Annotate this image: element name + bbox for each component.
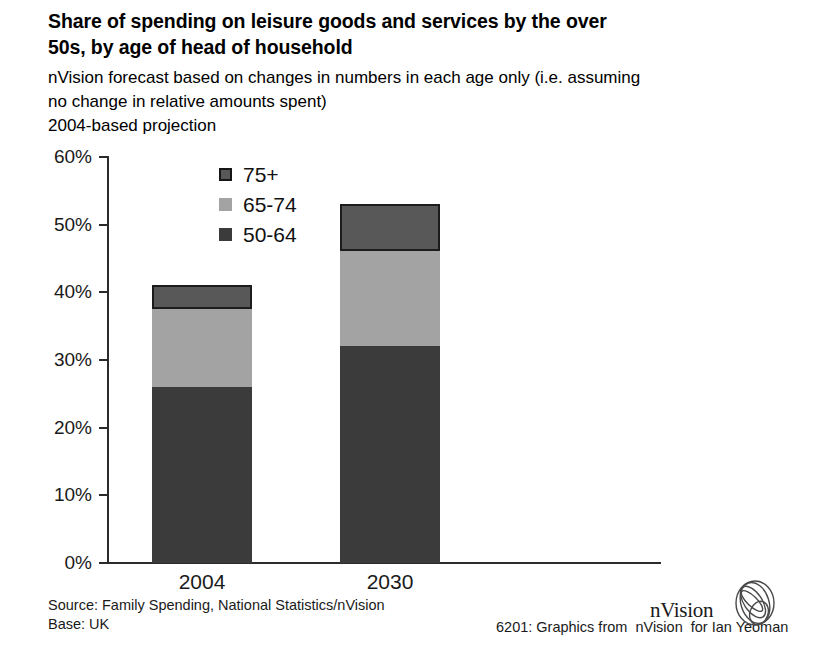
nvision-ellipse-logo-icon (728, 580, 782, 632)
bar-2004-segment-65-74[interactable] (152, 309, 252, 387)
legend-item-65-74[interactable]: 65-74 (219, 190, 369, 218)
source-note: Source: Family Spending, National Statis… (48, 596, 385, 634)
legend-label-50-64: 50-64 (243, 224, 297, 245)
bar-2030-segment-65-74[interactable] (340, 251, 440, 346)
stacked-bar-chart: 60% 50% 40% 30% 20% 10% 0% 2004 2030 (0, 0, 837, 665)
legend-swatch-75-plus-icon (219, 168, 232, 181)
y-tick-60 (99, 156, 108, 158)
bar-2004-segment-75-plus[interactable] (152, 285, 252, 309)
y-tick-50 (99, 224, 108, 226)
legend-item-50-64[interactable]: 50-64 (219, 220, 369, 248)
legend-swatch-65-74-icon (219, 198, 232, 211)
y-tick-label-60: 60% (30, 147, 92, 166)
base-line: Base: UK (48, 615, 385, 634)
chart-legend: 75+ 65-74 50-64 (219, 160, 369, 250)
x-tick-label-2030: 2030 (310, 570, 470, 594)
y-tick-10 (99, 494, 108, 496)
bar-2030-segment-50-64[interactable] (340, 346, 440, 563)
legend-label-75-plus: 75+ (243, 164, 279, 185)
y-tick-label-20: 20% (30, 418, 92, 437)
x-tick-label-2004: 2004 (122, 570, 282, 594)
y-tick-label-0: 0% (30, 553, 92, 572)
legend-label-65-74: 65-74 (243, 194, 297, 215)
chart-page: Share of spending on leisure goods and s… (0, 0, 837, 665)
y-tick-label-30: 30% (30, 350, 92, 369)
legend-swatch-50-64-icon (219, 228, 232, 241)
bar-2004-segment-50-64[interactable] (152, 387, 252, 563)
y-tick-label-50: 50% (30, 215, 92, 234)
y-tick-20 (99, 427, 108, 429)
y-tick-label-10: 10% (30, 485, 92, 504)
nvision-logo: nVision (650, 580, 790, 628)
y-tick-30 (99, 359, 108, 361)
y-tick-40 (99, 291, 108, 293)
nvision-logo-text: nVision (650, 598, 713, 623)
y-tick-label-40: 40% (30, 282, 92, 301)
y-tick-0 (99, 562, 108, 564)
source-line: Source: Family Spending, National Statis… (48, 596, 385, 615)
legend-item-75-plus[interactable]: 75+ (219, 160, 369, 188)
